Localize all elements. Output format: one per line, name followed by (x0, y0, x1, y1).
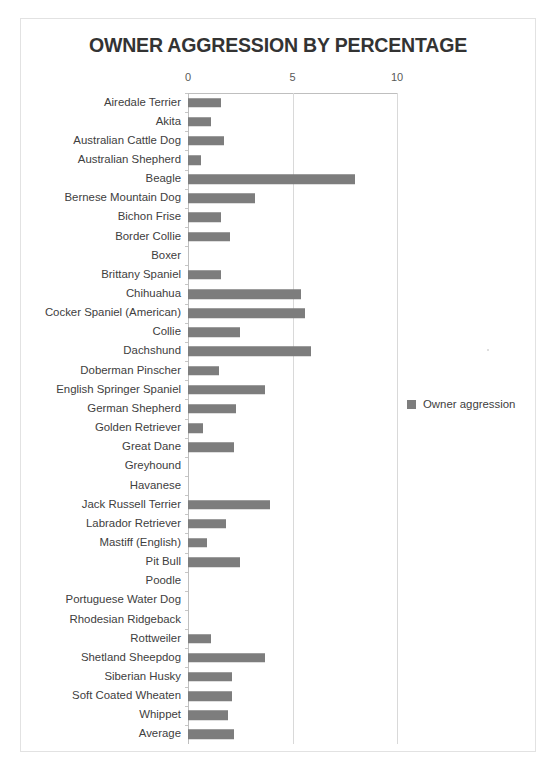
y-tickmark (185, 150, 188, 151)
category-label: Havanese (130, 480, 181, 491)
category-label: Cocker Spaniel (American) (45, 307, 181, 318)
bar-row: Pit Bull (188, 553, 397, 572)
category-label: German Shepherd (87, 403, 181, 414)
bar-row: Chihuahua (188, 284, 397, 303)
category-label: Mastiff (English) (100, 537, 181, 548)
category-label: Bichon Frise (118, 212, 181, 223)
category-label: Airedale Terrier (104, 97, 181, 108)
y-tickmark (185, 380, 188, 381)
bar-row: Whippet (188, 706, 397, 725)
bar (188, 634, 211, 644)
category-label: Golden Retriever (95, 422, 181, 433)
artifact-speck (487, 349, 489, 351)
x-tick-label: 0 (185, 71, 191, 83)
y-tickmark (185, 208, 188, 209)
bar (188, 519, 226, 529)
y-tickmark (185, 572, 188, 573)
y-tickmark (185, 112, 188, 113)
y-tickmark (185, 323, 188, 324)
y-tickmark (185, 399, 188, 400)
bar-row: Beagle (188, 170, 397, 189)
category-label: Soft Coated Wheaten (72, 690, 181, 701)
bar-row: Akita (188, 112, 397, 131)
bar-row: Collie (188, 323, 397, 342)
bar-row: Dachshund (188, 342, 397, 361)
category-label: Bernese Mountain Dog (64, 193, 181, 204)
category-label: Collie (153, 327, 182, 338)
bar-row: Mastiff (English) (188, 533, 397, 552)
bar-row: German Shepherd (188, 399, 397, 418)
y-tickmark (185, 553, 188, 554)
category-label: Siberian Husky (104, 671, 181, 682)
bar (188, 194, 255, 204)
bar-row: Doberman Pinscher (188, 361, 397, 380)
category-label: Australian Cattle Dog (73, 135, 181, 146)
category-label: English Springer Spaniel (56, 384, 181, 395)
y-tickmark (185, 304, 188, 305)
bar (188, 711, 228, 721)
y-tickmark (185, 476, 188, 477)
category-label: Portuguese Water Dog (66, 595, 181, 606)
bar (188, 423, 203, 433)
legend-label: Owner aggression (423, 398, 515, 410)
category-label: Rottweiler (130, 633, 181, 644)
bar (188, 174, 355, 184)
bar (188, 308, 305, 318)
y-tickmark (185, 591, 188, 592)
category-label: Greyhound (125, 461, 181, 472)
bar-row: Siberian Husky (188, 667, 397, 686)
category-label: Jack Russell Terrier (82, 499, 181, 510)
y-tickmark (185, 725, 188, 726)
y-tickmark (185, 131, 188, 132)
bar (188, 672, 232, 682)
bar (188, 500, 270, 510)
bar-row: Border Collie (188, 227, 397, 246)
bar-row: Average (188, 725, 397, 744)
bar (188, 117, 211, 127)
bar-row: Brittany Spaniel (188, 265, 397, 284)
bar (188, 557, 240, 567)
bar-row: Rhodesian Ridgeback (188, 610, 397, 629)
chart-title: OWNER AGGRESSION BY PERCENTAGE (39, 33, 517, 57)
bar-row: English Springer Spaniel (188, 380, 397, 399)
bar-row: Rottweiler (188, 629, 397, 648)
category-label: Akita (156, 116, 181, 127)
bar (188, 232, 230, 242)
y-tickmark (185, 246, 188, 247)
bar (188, 404, 236, 414)
bar-row: Australian Shepherd (188, 150, 397, 169)
bar (188, 270, 221, 280)
category-label: Poodle (146, 576, 181, 587)
y-tickmark (185, 648, 188, 649)
bar (188, 347, 311, 357)
y-tickmark (185, 227, 188, 228)
bar-row: Bichon Frise (188, 208, 397, 227)
y-tickmark (185, 667, 188, 668)
y-tickmark (185, 189, 188, 190)
x-tick-label: 10 (391, 71, 403, 83)
category-label: Australian Shepherd (78, 154, 181, 165)
bar-row: Cocker Spaniel (American) (188, 304, 397, 323)
bar (188, 328, 240, 338)
chart-legend: Owner aggression (407, 398, 515, 410)
bar (188, 691, 232, 701)
bar-row: Australian Cattle Dog (188, 131, 397, 150)
category-label: Doberman Pinscher (80, 365, 181, 376)
y-tickmark (185, 265, 188, 266)
bar (188, 213, 221, 223)
bar (188, 366, 219, 376)
y-tickmark (185, 687, 188, 688)
bar (188, 289, 301, 299)
bar-row: Jack Russell Terrier (188, 495, 397, 514)
category-label: Border Collie (115, 231, 181, 242)
bar-row: Poodle (188, 572, 397, 591)
bar (188, 730, 234, 740)
bar (188, 136, 224, 146)
bar-row: Boxer (188, 246, 397, 265)
bar (188, 385, 265, 395)
y-tickmark (185, 284, 188, 285)
category-label: Beagle (146, 173, 181, 184)
bar-row: Bernese Mountain Dog (188, 189, 397, 208)
bar-row: Greyhound (188, 457, 397, 476)
y-tickmark (185, 457, 188, 458)
